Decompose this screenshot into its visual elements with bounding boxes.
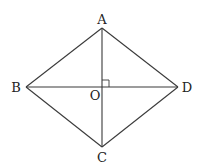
rhombus-diagonals xyxy=(26,28,178,147)
rhombus-diagram: A B C D O xyxy=(0,0,199,168)
vertex-label-b: B xyxy=(11,80,21,95)
vertex-label-d: D xyxy=(182,80,192,95)
edge-da xyxy=(102,28,178,87)
vertex-label-c: C xyxy=(97,150,107,165)
edge-cd xyxy=(102,87,178,147)
right-angle-marker xyxy=(102,80,109,87)
center-label-o: O xyxy=(90,88,101,103)
edge-ab xyxy=(26,28,102,87)
vertex-label-a: A xyxy=(96,12,107,27)
